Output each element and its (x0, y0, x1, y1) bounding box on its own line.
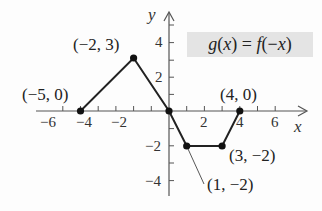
point-origin (165, 107, 172, 114)
leader-line (187, 146, 204, 184)
x-tick-4: 4 (236, 115, 244, 130)
x-tick-2: 2 (200, 115, 208, 130)
point-3-neg2 (219, 142, 226, 149)
graph-figure: y x −6 −4 −2 2 4 6 4 2 −2 −4 (−5, 0) (−2… (0, 0, 322, 211)
x-tick-neg6: −6 (40, 115, 56, 130)
y-tick-2: 2 (155, 70, 163, 85)
y-tick-neg2: −2 (145, 139, 161, 154)
point-1-neg2 (183, 142, 190, 149)
label-point-neg2-3: (−2, 3) (73, 36, 119, 53)
x-axis-label: x (294, 118, 302, 135)
eq-open2: (− (262, 34, 278, 55)
x-tick-neg2: −2 (111, 115, 127, 130)
x-tick-neg4: −4 (76, 115, 92, 130)
point-neg2-3 (130, 54, 137, 61)
y-axis-label: y (148, 6, 156, 23)
y-tick-4: 4 (155, 35, 163, 50)
label-point-1-neg2: (1, −2) (207, 176, 253, 193)
eq-mid: ) = (231, 34, 256, 55)
eq-x1: x (223, 34, 231, 55)
label-point-neg5-0: (−5, 0) (22, 86, 68, 103)
eq-x2: x (278, 34, 286, 55)
label-point-4-0: (4, 0) (220, 86, 257, 103)
eq-close: ) (286, 34, 292, 55)
y-tick-neg4: −4 (145, 174, 161, 189)
x-tick-6: 6 (271, 115, 279, 130)
label-point-3-neg2: (3, −2) (229, 147, 275, 164)
function-equation-box: g(x) = f(−x) (187, 32, 313, 57)
eq-g: g (208, 34, 217, 55)
